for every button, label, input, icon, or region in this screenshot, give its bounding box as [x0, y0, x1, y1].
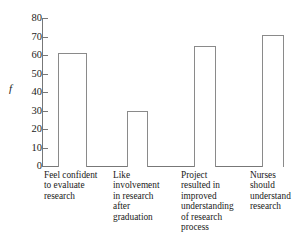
y-tick-30: 30 — [12, 106, 42, 117]
y-tick-0: 0 — [12, 161, 42, 172]
y-tick-80: 80 — [12, 13, 42, 24]
y-tick-mark-30 — [42, 111, 48, 112]
category-label-2: Like involvement in research after gradu… — [113, 170, 183, 222]
y-tick-70: 70 — [12, 32, 42, 43]
y-tick-50: 50 — [12, 69, 42, 80]
category-label-3: Project resulted in improved understandi… — [181, 170, 253, 232]
category-label-4: Nurses should understand research — [250, 170, 307, 212]
category-label-1: Feel confident to evaluate research — [44, 170, 114, 201]
y-tick-40: 40 — [12, 87, 42, 98]
bar-like-involvement — [127, 111, 148, 168]
bar-nurses-should — [262, 35, 284, 167]
y-tick-mark-50 — [42, 74, 48, 75]
y-tick-label-70: 70 — [20, 32, 42, 43]
y-tick-label-40: 40 — [20, 87, 42, 98]
y-tick-label-50: 50 — [20, 69, 42, 80]
y-tick-60: 60 — [12, 50, 42, 61]
y-tick-label-80: 80 — [20, 13, 42, 24]
bar-project-resulted — [194, 46, 216, 167]
bar-chart: f 80 70 60 50 40 30 20 10 0 — [0, 0, 307, 241]
y-tick-mark-60 — [42, 55, 48, 56]
y-tick-mark-20 — [42, 129, 48, 130]
y-tick-label-0: 0 — [20, 161, 42, 172]
y-tick-mark-70 — [42, 37, 48, 38]
bar-feel-confident — [58, 53, 87, 167]
y-tick-20: 20 — [12, 124, 42, 135]
y-tick-mark-80 — [42, 18, 48, 19]
y-tick-label-20: 20 — [20, 124, 42, 135]
y-tick-label-60: 60 — [20, 50, 42, 61]
y-tick-mark-40 — [42, 92, 48, 93]
y-tick-mark-10 — [42, 148, 48, 149]
y-tick-label-10: 10 — [20, 143, 42, 154]
y-tick-label-30: 30 — [20, 106, 42, 117]
y-tick-10: 10 — [12, 143, 42, 154]
